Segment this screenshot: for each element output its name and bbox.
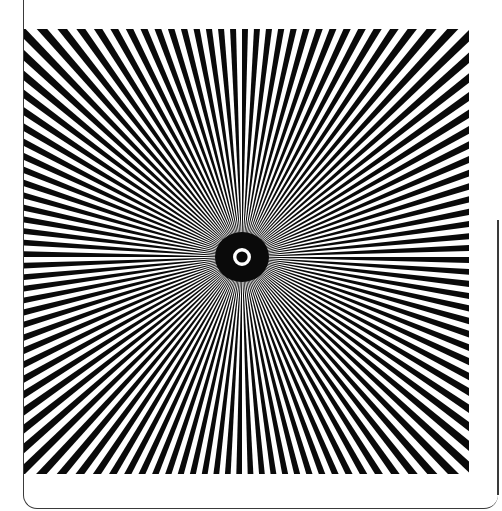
siemens-star-svg <box>24 29 469 474</box>
siemens-star-pattern <box>24 29 469 474</box>
center-blob <box>215 232 269 282</box>
card-frame-right-edge <box>497 220 499 495</box>
